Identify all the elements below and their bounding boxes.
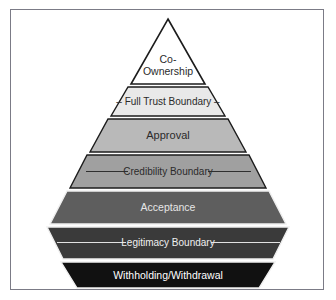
tier-co-ownership-label-line1: Co- — [160, 53, 177, 65]
tier-co-ownership-label-line2: Ownership — [143, 65, 193, 77]
tier-withholding-withdrawal-label: Withholding/Withdrawal — [113, 269, 223, 281]
tier-full-trust-boundary-label: – Full Trust Boundary – — [116, 96, 220, 107]
trust-pyramid-diagram: Co- Ownership – Full Trust Boundary – Ap… — [0, 0, 336, 300]
tier-legitimacy-boundary[interactable]: Legitimacy Boundary — [47, 227, 289, 259]
tier-approval-label: Approval — [146, 129, 189, 141]
tier-legitimacy-boundary-label: Legitimacy Boundary — [121, 237, 214, 248]
tier-acceptance[interactable]: Acceptance — [50, 191, 286, 224]
tier-acceptance-label: Acceptance — [141, 201, 196, 213]
tier-full-trust-boundary[interactable]: – Full Trust Boundary – — [111, 87, 225, 116]
figure-root: Co- Ownership – Full Trust Boundary – Ap… — [0, 0, 336, 300]
tier-withholding-withdrawal[interactable]: Withholding/Withdrawal — [61, 262, 275, 288]
tier-credibility-boundary-label: Credibility Boundary — [123, 166, 213, 177]
tier-approval[interactable]: Approval — [90, 119, 246, 152]
tier-credibility-boundary[interactable]: Credibility Boundary — [70, 155, 266, 188]
tier-co-ownership[interactable]: Co- Ownership — [131, 19, 205, 84]
